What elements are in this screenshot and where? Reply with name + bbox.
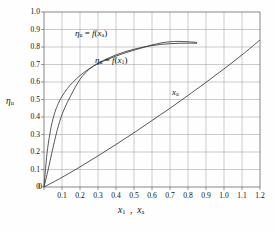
label-xa: xa xyxy=(172,87,179,97)
y-tick-label: 0.7 xyxy=(16,60,40,69)
y-tick-label: 0.3 xyxy=(16,130,40,139)
y-tick-label: 0.1 xyxy=(16,165,40,174)
x-axis-title: x1 , xa xyxy=(118,205,144,215)
label-eta-fx1: ηu = f(x1) xyxy=(95,55,128,65)
y-tick-label: 0.5 xyxy=(16,95,40,104)
y-axis-title: ηu xyxy=(6,96,14,106)
x-tick-label: 1.2 xyxy=(249,191,271,200)
label-eta-fxa: ηu = f(xa) xyxy=(75,28,107,38)
y-tick-label: 0.6 xyxy=(16,77,40,86)
y-tick-label: 0.9 xyxy=(16,25,40,34)
y-tick-label: 0.2 xyxy=(16,147,40,156)
y-tick-label: 0.8 xyxy=(16,42,40,51)
y-tick-label: 1.0 xyxy=(16,7,40,16)
grid-lines xyxy=(41,12,260,190)
y-tick-label: 0.4 xyxy=(16,112,40,121)
origin-tick-label: 0 xyxy=(30,182,42,191)
chart-figure: ηu 00.10.20.30.40.50.60.70.80.91.0 0.10.… xyxy=(0,0,276,231)
